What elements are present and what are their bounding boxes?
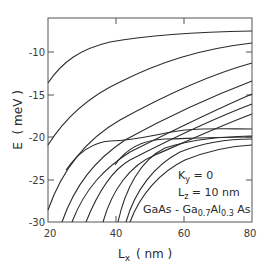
annotation-material: GaAs - Ga0.7Al0.3 As: [143, 203, 251, 218]
x-tick-label: 20: [44, 228, 57, 239]
x-ticks: [116, 18, 184, 222]
y-axis-unit: ( meV ): [11, 90, 25, 134]
annotation-lz: Lz = 10 nm: [178, 186, 240, 201]
y-tick-label: -10: [29, 47, 45, 58]
y-axis-symbol: E: [11, 142, 25, 150]
energy-vs-lx-chart: -10 -15 -20 -25 -30 20 40 60 80 E ( meV …: [0, 0, 269, 267]
y-axis-title: E ( meV ): [11, 90, 25, 150]
annotation-ky: Ky = 0: [178, 169, 213, 184]
x-tick-label: 80: [244, 228, 257, 239]
svg-text:E ( meV ): E ( meV ): [11, 90, 25, 150]
x-axis-unit: ( nm ): [136, 247, 172, 261]
curve-level-4: [62, 81, 252, 222]
x-axis-subscript: x: [125, 253, 131, 263]
curve-level-8-flat: [66, 129, 252, 170]
curve-level-2: [48, 43, 252, 145]
curve-level-1: [48, 31, 252, 83]
y-tick-label: -20: [29, 132, 45, 143]
x-tick-label: 60: [178, 228, 191, 239]
y-tick-label: -25: [29, 175, 45, 186]
y-tick-label: -15: [29, 90, 45, 101]
x-axis-title: Lx( nm ): [118, 247, 172, 263]
y-tick-label: -30: [29, 217, 45, 228]
x-tick-label: 40: [110, 228, 123, 239]
